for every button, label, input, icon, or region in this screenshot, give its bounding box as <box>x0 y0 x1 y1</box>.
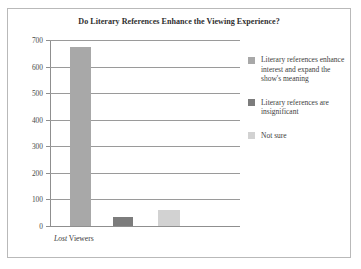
gridline-700 <box>50 40 240 41</box>
chart-figure: Do Literary References Enhance the Viewi… <box>7 8 351 258</box>
y-axis-tick-label: 700 <box>32 36 43 45</box>
legend-swatch-icon <box>248 57 255 64</box>
y-tick-mark-100 <box>46 199 50 200</box>
legend-item: Not sure <box>248 131 348 141</box>
y-tick-mark-300 <box>46 146 50 147</box>
chart-legend: Literary references enhance interest and… <box>248 55 348 155</box>
bar <box>158 210 180 226</box>
y-axis-tick-label: 0 <box>39 222 43 231</box>
y-axis-tick-label: 200 <box>32 168 43 177</box>
legend-swatch-icon <box>248 99 255 106</box>
legend-item-label: Literary references are insignificant <box>261 98 345 117</box>
y-tick-mark-500 <box>46 93 50 94</box>
y-tick-mark-200 <box>46 173 50 174</box>
plot-area: 7006005004003002001000 <box>50 40 240 226</box>
x-axis-label-plain: Viewers <box>69 234 94 243</box>
legend-swatch-icon <box>248 132 255 139</box>
chart-title: Do Literary References Enhance the Viewi… <box>8 17 350 26</box>
gridline-0 <box>50 226 240 227</box>
bar <box>70 47 91 226</box>
x-axis-label-italic: Lost <box>54 234 67 243</box>
legend-item-label: Not sure <box>261 131 287 141</box>
legend-item: Literary references enhance interest and… <box>248 55 348 84</box>
y-tick-mark-700 <box>46 40 50 41</box>
legend-item-label: Literary references enhance interest and… <box>261 55 345 84</box>
y-axis-tick-label: 100 <box>32 195 43 204</box>
y-axis-tick-label: 500 <box>32 89 43 98</box>
y-axis-tick-label: 300 <box>32 142 43 151</box>
y-tick-mark-400 <box>46 120 50 121</box>
bar <box>113 217 133 226</box>
y-axis-tick-label: 400 <box>32 115 43 124</box>
y-tick-mark-600 <box>46 67 50 68</box>
x-axis-label: Lost Viewers <box>54 234 94 243</box>
y-axis-tick-label: 600 <box>32 62 43 71</box>
legend-item: Literary references are insignificant <box>248 98 348 117</box>
y-tick-mark-0 <box>46 226 50 227</box>
